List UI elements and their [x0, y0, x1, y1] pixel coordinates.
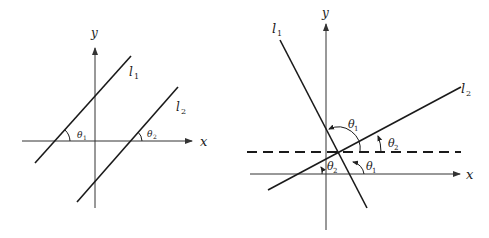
svg-text:1: 1	[277, 29, 282, 38]
figure-parallel-lines: x y l 1 l 2 θ 1 θ 2	[22, 26, 208, 208]
line-l2	[77, 87, 178, 202]
angle-theta1-upper-label: θ 1	[348, 118, 358, 133]
angle-arc-theta2-upper	[378, 136, 381, 152]
line-l2-label: l 2	[461, 81, 471, 98]
angle-theta1-lower-label: θ 1	[366, 160, 376, 175]
angle-arc-theta1	[65, 130, 70, 141]
svg-text:1: 1	[134, 72, 139, 81]
x-axis-label: x	[466, 167, 474, 182]
svg-text:2: 2	[333, 167, 337, 175]
line-l1	[35, 56, 131, 163]
svg-text:1: 1	[83, 134, 87, 141]
svg-text:2: 2	[181, 107, 186, 116]
svg-text:2: 2	[153, 133, 157, 140]
angle-arc-theta1-lower	[353, 162, 364, 174]
svg-text:1: 1	[372, 167, 376, 175]
figure-intersecting-lines: x y l 1 l 2 θ 1 θ 2 θ 1	[247, 6, 474, 230]
line-l1-label: l 1	[272, 21, 282, 38]
y-axis-label: y	[321, 6, 329, 20]
svg-text:l: l	[129, 65, 133, 79]
angle-theta2-label: θ 2	[147, 129, 157, 140]
svg-text:1: 1	[354, 125, 358, 133]
svg-text:l: l	[176, 100, 180, 114]
angle-arc-theta2-lower	[321, 167, 322, 174]
diagram-canvas: x y l 1 l 2 θ 1 θ 2 x y l	[0, 0, 489, 238]
line-l2	[268, 87, 461, 190]
x-axis-label: x	[200, 134, 208, 149]
svg-text:2: 2	[466, 89, 471, 98]
y-axis-label: y	[90, 26, 98, 40]
line-l1-label: l 1	[129, 65, 139, 81]
angle-theta2-upper-label: θ 2	[388, 137, 398, 152]
angle-theta1-label: θ 1	[77, 130, 87, 141]
line-l2-label: l 2	[176, 100, 186, 116]
svg-text:l: l	[461, 81, 465, 96]
svg-text:2: 2	[394, 144, 398, 152]
angle-arc-theta2	[138, 132, 142, 141]
angle-theta2-lower-label: θ 2	[327, 160, 337, 175]
svg-text:l: l	[272, 21, 276, 36]
